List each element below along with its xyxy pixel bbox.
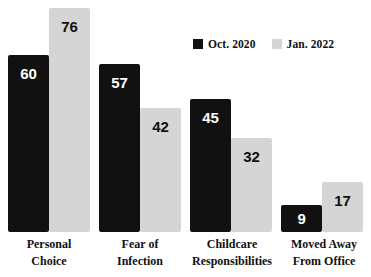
category-label-moved-away-from-office: Moved Away From Office [277, 236, 371, 269]
bar-chart: Oct. 2020 Jan. 2022 60 76 57 42 [0, 0, 371, 277]
bar-jan-2022-childcare-responsibilities[interactable]: 32 [231, 138, 272, 232]
category-label-line: Fear of [91, 236, 189, 253]
bar-value-label: 45 [190, 110, 231, 125]
bar-group-childcare-responsibilities: 45 32 [190, 0, 272, 232]
bar-oct-2020-childcare-responsibilities[interactable]: 45 [190, 99, 231, 232]
bar-value-label: 60 [8, 66, 49, 81]
bar-oct-2020-fear-of-infection[interactable]: 57 [99, 64, 140, 232]
category-label-line: Choice [0, 253, 98, 270]
category-label-line: Childcare [180, 236, 284, 253]
category-axis: Personal Choice Fear of Infection Childc… [0, 236, 371, 277]
bar-jan-2022-fear-of-infection[interactable]: 42 [140, 108, 181, 232]
bar-value-label: 57 [99, 75, 140, 90]
category-label-line: Responsibilities [180, 253, 284, 270]
category-label-fear-of-infection: Fear of Infection [91, 236, 189, 269]
category-label-line: From Office [277, 253, 371, 270]
bar-value-label: 17 [322, 193, 363, 208]
category-label-line: Personal [0, 236, 98, 253]
bar-jan-2022-moved-away-from-office[interactable]: 17 [322, 182, 363, 232]
bar-value-label: 42 [140, 119, 181, 134]
bar-group-fear-of-infection: 57 42 [99, 0, 181, 232]
bar-value-label: 9 [281, 211, 322, 226]
plot-area: 60 76 57 42 45 32 9 [0, 0, 371, 232]
bar-group-moved-away-from-office: 9 17 [281, 0, 363, 232]
category-label-line: Infection [91, 253, 189, 270]
category-label-childcare-responsibilities: Childcare Responsibilities [180, 236, 284, 269]
category-label-personal-choice: Personal Choice [0, 236, 98, 269]
bar-value-label: 76 [49, 19, 90, 34]
bar-group-personal-choice: 60 76 [8, 0, 90, 232]
bar-value-label: 32 [231, 149, 272, 164]
bar-jan-2022-personal-choice[interactable]: 76 [49, 8, 90, 232]
bar-oct-2020-moved-away-from-office[interactable]: 9 [281, 205, 322, 232]
category-label-line: Moved Away [277, 236, 371, 253]
bar-oct-2020-personal-choice[interactable]: 60 [8, 55, 49, 232]
